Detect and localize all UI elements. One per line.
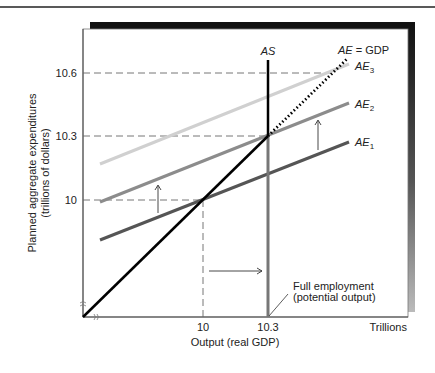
y-axis-subtitle: (trillions of dollars) xyxy=(39,128,51,217)
frame-shadow-right xyxy=(408,22,415,312)
ae-gdp-label-main: AE xyxy=(337,44,353,56)
y-tick-10-3: 10.3 xyxy=(56,130,77,142)
y-tick-10: 10 xyxy=(65,194,77,206)
ae2-label-sub: 2 xyxy=(370,104,375,113)
ae1-label-main: AE xyxy=(354,136,370,148)
aggregate-expenditure-chart: 10.6 10.3 10 10 10.3 Trillions Output (r… xyxy=(0,0,435,373)
ae-gdp-label-rest: = GDP xyxy=(353,44,389,56)
as-label: AS xyxy=(260,45,276,57)
y-tick-10-6: 10.6 xyxy=(56,67,77,79)
x-axis-title: Output (real GDP) xyxy=(191,336,280,348)
ae3-label-main: AE xyxy=(354,60,370,72)
ae1-label-sub: 1 xyxy=(370,142,375,151)
frame-shadow-top xyxy=(90,22,415,29)
x-tick-10: 10 xyxy=(197,321,209,333)
x-tick-10-3: 10.3 xyxy=(257,321,278,333)
y-axis-title: Planned aggregate expenditures xyxy=(26,93,38,253)
ae3-label-sub: 3 xyxy=(370,66,375,75)
plot-frame xyxy=(83,29,408,317)
x-unit-label: Trillions xyxy=(370,321,408,333)
ae-gdp-label: AE = GDP xyxy=(337,44,389,56)
ae2-label-main: AE xyxy=(354,98,370,110)
potential-output-label: (potential output) xyxy=(293,291,376,303)
